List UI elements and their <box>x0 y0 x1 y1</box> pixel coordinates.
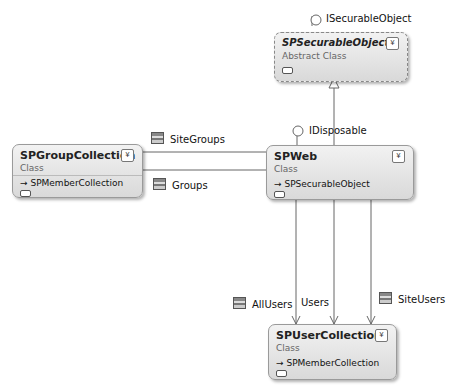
base-class-name: SPMemberCollection <box>286 358 379 368</box>
property-icon <box>233 297 246 309</box>
class-name: SPWeb <box>274 150 317 163</box>
double-chevron-down-icon[interactable]: ¥ <box>392 150 405 163</box>
arrow-right-icon: → <box>276 358 284 368</box>
base-class: → SPSecurableObject <box>274 179 370 189</box>
collapsed-members-icon <box>20 190 31 197</box>
base-class: → SPMemberCollection <box>20 178 123 188</box>
class-stereotype: Abstract Class <box>282 51 346 61</box>
association-users[interactable]: Users <box>301 297 329 308</box>
association-label: AllUsers <box>252 299 292 310</box>
arrow-right-icon: → <box>274 179 282 189</box>
collapsed-members-icon <box>282 67 293 74</box>
collapsed-members-icon <box>276 370 287 377</box>
idisposable-lollipop-icon <box>293 126 303 136</box>
collapsed-members-icon <box>274 191 285 198</box>
class-stereotype: Class <box>276 343 300 353</box>
arrow-right-icon: → <box>20 178 28 188</box>
class-spusercollection[interactable]: SPUserCollection Class ¥ → SPMemberColle… <box>268 324 397 380</box>
base-class: → SPMemberCollection <box>276 358 379 368</box>
class-stereotype: Class <box>20 163 44 173</box>
double-chevron-down-icon[interactable]: ¥ <box>121 149 134 162</box>
base-class-name: SPMemberCollection <box>30 178 123 188</box>
class-stereotype: Class <box>274 164 298 174</box>
class-name: SPSecurableObject <box>282 37 389 48</box>
association-allusers[interactable]: AllUsers <box>233 297 292 310</box>
class-name: SPUserCollection <box>276 329 382 342</box>
class-spweb[interactable]: SPWeb Class ¥ → SPSecurableObject <box>266 145 414 200</box>
divider <box>13 175 142 176</box>
association-siteusers[interactable]: SiteUsers <box>379 292 445 305</box>
idisposable-label: IDisposable <box>309 125 367 136</box>
base-class-name: SPSecurableObject <box>284 179 369 189</box>
class-spsecurableobject[interactable]: SPSecurableObject Abstract Class ¥ <box>274 32 408 82</box>
double-chevron-down-icon[interactable]: ¥ <box>375 329 388 342</box>
double-chevron-down-icon[interactable]: ¥ <box>386 37 399 50</box>
association-label: SiteGroups <box>170 134 225 145</box>
association-label: Groups <box>172 180 208 191</box>
class-name: SPGroupCollection <box>20 149 135 162</box>
isecurable-lollipop-icon <box>311 15 321 25</box>
property-icon <box>379 292 392 304</box>
class-spgroupcollection[interactable]: SPGroupCollection Class ¥ → SPMemberColl… <box>12 144 143 198</box>
association-label: Users <box>301 297 329 308</box>
association-sitegroups[interactable]: SiteGroups <box>151 132 225 145</box>
association-label: SiteUsers <box>398 294 445 305</box>
isecurable-label: ISecurableObject <box>326 13 411 24</box>
property-icon <box>153 178 166 190</box>
property-icon <box>151 132 164 144</box>
association-groups[interactable]: Groups <box>153 178 208 191</box>
